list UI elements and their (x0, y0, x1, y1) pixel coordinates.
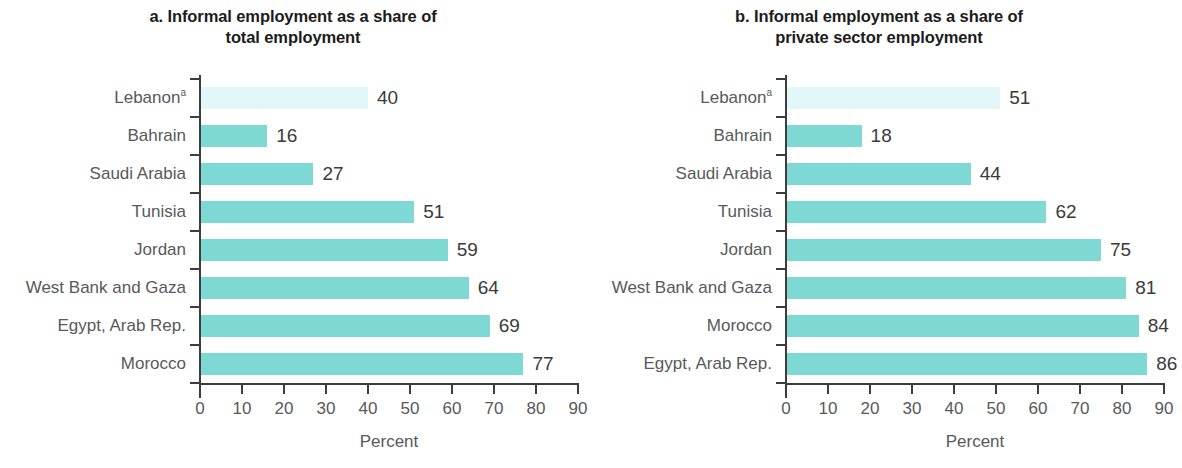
x-axis-tick-label: 20 (264, 399, 304, 419)
bar-row: Bahrain16 (0, 117, 586, 155)
bar (786, 277, 1126, 299)
x-axis-tick (577, 385, 579, 394)
category-label: Jordan (720, 231, 772, 269)
chart-panel-b: b. Informal employment as a share of pri… (586, 0, 1172, 468)
bar-row: West Bank and Gaza64 (0, 269, 586, 307)
x-axis-tick-label: 50 (976, 399, 1016, 419)
x-axis-tick-label: 50 (390, 399, 430, 419)
x-axis-tick (995, 385, 997, 394)
panel-a-plot-area: Lebanona40Bahrain16Saudi Arabia27Tunisia… (0, 0, 586, 468)
bar-value-label: 81 (1135, 269, 1156, 307)
bar (786, 87, 1000, 109)
bar-row: West Bank and Gaza81 (586, 269, 1172, 307)
x-axis-tick (869, 385, 871, 394)
y-axis-tick (776, 154, 785, 156)
bar-row: Tunisia62 (586, 193, 1172, 231)
y-axis-line (785, 75, 787, 385)
bar (200, 277, 469, 299)
x-axis-tick-label: 30 (306, 399, 346, 419)
bar (200, 353, 523, 375)
bar-row: Lebanona51 (586, 79, 1172, 117)
category-label: Lebanona (114, 79, 186, 117)
bar-value-label: 51 (423, 193, 444, 231)
bar (786, 201, 1046, 223)
bar-value-label: 40 (377, 79, 398, 117)
x-axis-tick-label: 10 (808, 399, 848, 419)
category-label: West Bank and Gaza (26, 269, 186, 307)
x-axis-tick-label: 0 (766, 399, 806, 419)
bar-value-label: 86 (1156, 345, 1177, 383)
category-label: Bahrain (127, 117, 186, 155)
bar-row: Tunisia51 (0, 193, 586, 231)
category-label: Saudi Arabia (676, 155, 772, 193)
x-axis-tick-label: 90 (1144, 399, 1182, 419)
bar (200, 125, 267, 147)
bar (200, 201, 414, 223)
x-axis-tick (325, 385, 327, 394)
chart-panel-a: a. Informal employment as a share of tot… (0, 0, 586, 468)
bar-value-label: 69 (499, 307, 520, 345)
category-label: Tunisia (132, 193, 186, 231)
x-axis-tick (911, 385, 913, 394)
x-axis-line (199, 383, 579, 385)
bar (786, 315, 1139, 337)
x-axis-tick (1121, 385, 1123, 394)
bar (200, 87, 368, 109)
y-axis-tick (776, 116, 785, 118)
bar-row: Lebanona40 (0, 79, 586, 117)
x-axis-tick (827, 385, 829, 394)
x-axis-tick (409, 385, 411, 394)
bar-row: Saudi Arabia44 (586, 155, 1172, 193)
bar (200, 163, 313, 185)
bar-row: Jordan59 (0, 231, 586, 269)
x-axis-tick-label: 70 (1060, 399, 1100, 419)
x-axis-tick-label: 60 (1018, 399, 1058, 419)
bar (200, 315, 490, 337)
y-axis-tick (190, 268, 199, 270)
category-label: Morocco (707, 307, 772, 345)
x-axis-tick-label: 10 (222, 399, 262, 419)
bar-row: Morocco77 (0, 345, 586, 383)
bar (200, 239, 448, 261)
y-axis-tick (776, 382, 785, 384)
bar-value-label: 18 (871, 117, 892, 155)
x-axis-tick-label: 20 (850, 399, 890, 419)
category-label: Egypt, Arab Rep. (57, 307, 186, 345)
bar-row: Egypt, Arab Rep.86 (586, 345, 1172, 383)
bar (786, 163, 971, 185)
y-axis-tick (190, 382, 199, 384)
y-axis-tick (190, 306, 199, 308)
category-label: West Bank and Gaza (612, 269, 772, 307)
category-label: Egypt, Arab Rep. (643, 345, 772, 383)
x-axis-tick (1163, 385, 1165, 394)
bar-value-label: 59 (457, 231, 478, 269)
x-axis-tick (785, 385, 787, 398)
category-label: Morocco (121, 345, 186, 383)
y-axis-tick (776, 344, 785, 346)
x-axis-tick-label: 80 (1102, 399, 1142, 419)
bar-row: Saudi Arabia27 (0, 155, 586, 193)
bar-value-label: 62 (1055, 193, 1076, 231)
footnote-marker: a (180, 87, 186, 98)
bar (786, 353, 1147, 375)
x-axis-title: Percent (875, 432, 1075, 452)
x-axis-tick (493, 385, 495, 394)
y-axis-tick (776, 230, 785, 232)
bar-row: Morocco84 (586, 307, 1172, 345)
x-axis-tick-label: 30 (892, 399, 932, 419)
bar-row: Egypt, Arab Rep.69 (0, 307, 586, 345)
panel-b-plot-area: Lebanona51Bahrain18Saudi Arabia44Tunisia… (586, 0, 1172, 468)
x-axis-tick (283, 385, 285, 394)
x-axis-tick-label: 70 (474, 399, 514, 419)
y-axis-tick (776, 78, 785, 80)
bar-value-label: 64 (478, 269, 499, 307)
bar-row: Bahrain18 (586, 117, 1172, 155)
bar (786, 239, 1101, 261)
y-axis-tick (776, 268, 785, 270)
footnote-marker: a (766, 87, 772, 98)
bar-value-label: 84 (1148, 307, 1169, 345)
x-axis-tick (535, 385, 537, 394)
x-axis-tick (451, 385, 453, 394)
category-label: Bahrain (713, 117, 772, 155)
x-axis-tick (199, 385, 201, 398)
